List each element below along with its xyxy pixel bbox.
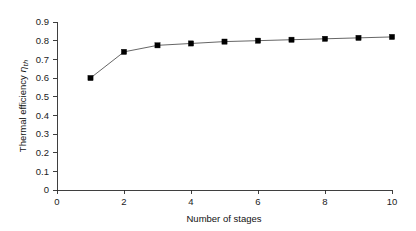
x-tick-label: 2	[121, 196, 126, 207]
chart-figure: 0.9 0.8 0.7 0.6 0.5 0.4 0.3 0.2 0.1 0 0 …	[0, 0, 416, 231]
data-point-marker	[322, 36, 327, 41]
data-point-marker	[188, 41, 193, 46]
data-point-marker	[289, 37, 294, 42]
x-tick-label: 10	[387, 196, 398, 207]
y-tick-label: 0.6	[36, 72, 49, 83]
data-point-marker	[121, 49, 126, 54]
data-point-marker	[155, 43, 160, 48]
x-tick-label: 8	[322, 196, 327, 207]
data-point-marker	[255, 38, 260, 43]
eta-subscript: th	[22, 60, 30, 67]
data-point-marker	[356, 35, 361, 40]
data-point-marker	[389, 34, 394, 39]
y-tick-label: 0.1	[36, 166, 49, 177]
data-point-marker	[88, 75, 93, 80]
thermal-efficiency-line-chart: 0.9 0.8 0.7 0.6 0.5 0.4 0.3 0.2 0.1 0 0 …	[0, 0, 416, 231]
chart-background	[0, 0, 416, 231]
y-tick-label: 0.3	[36, 128, 49, 139]
x-tick-label: 0	[54, 196, 59, 207]
data-point-marker	[222, 39, 227, 44]
y-tick-label: 0.7	[36, 54, 49, 65]
y-tick-label: 0.9	[36, 16, 49, 27]
y-axis-title-text: Thermal efficiency	[17, 75, 28, 152]
y-tick-label: 0.8	[36, 35, 49, 46]
x-tick-label: 4	[188, 196, 193, 207]
y-tick-label: 0.5	[36, 91, 49, 102]
y-tick-label: 0	[44, 184, 49, 195]
x-axis-title: Number of stages	[187, 213, 262, 224]
x-tick-label: 6	[255, 196, 260, 207]
y-tick-label: 0.2	[36, 147, 49, 158]
y-tick-label: 0.4	[36, 110, 49, 121]
